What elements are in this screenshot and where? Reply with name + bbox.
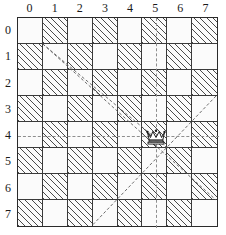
board-square[interactable] bbox=[167, 18, 192, 44]
board-square[interactable] bbox=[43, 174, 68, 200]
board-square[interactable] bbox=[192, 122, 217, 148]
board-square[interactable] bbox=[118, 148, 143, 174]
board-square[interactable] bbox=[68, 44, 93, 70]
row-label-2: 2 bbox=[0, 70, 16, 96]
board-square[interactable] bbox=[118, 18, 143, 44]
board-square[interactable] bbox=[43, 122, 68, 148]
board-square[interactable] bbox=[93, 148, 118, 174]
board-square[interactable] bbox=[142, 70, 167, 96]
row-label-6: 6 bbox=[0, 175, 16, 201]
chessboard bbox=[17, 17, 218, 227]
column-label-1: 1 bbox=[42, 0, 67, 16]
board-square[interactable] bbox=[93, 44, 118, 70]
board-square[interactable] bbox=[118, 122, 143, 148]
board-square[interactable] bbox=[118, 96, 143, 122]
board-square[interactable] bbox=[43, 200, 68, 226]
board-square[interactable] bbox=[118, 200, 143, 226]
board-square[interactable] bbox=[142, 96, 167, 122]
board-square[interactable] bbox=[142, 174, 167, 200]
column-label-0: 0 bbox=[17, 0, 42, 16]
board-square[interactable] bbox=[167, 70, 192, 96]
board-square[interactable] bbox=[68, 18, 93, 44]
row-label-4: 4 bbox=[0, 122, 16, 148]
board-square[interactable] bbox=[192, 44, 217, 70]
board-square[interactable] bbox=[18, 96, 43, 122]
board-square[interactable] bbox=[118, 44, 143, 70]
board-square[interactable] bbox=[142, 200, 167, 226]
column-label-6: 6 bbox=[168, 0, 193, 16]
board-square[interactable] bbox=[192, 174, 217, 200]
board-square[interactable] bbox=[93, 96, 118, 122]
board-square[interactable] bbox=[68, 200, 93, 226]
board-square[interactable] bbox=[43, 148, 68, 174]
board-square[interactable] bbox=[68, 122, 93, 148]
board-square[interactable] bbox=[167, 174, 192, 200]
board-square[interactable] bbox=[18, 148, 43, 174]
board-square[interactable] bbox=[167, 44, 192, 70]
board-square[interactable] bbox=[118, 70, 143, 96]
board-square[interactable] bbox=[167, 200, 192, 226]
board-square[interactable] bbox=[167, 122, 192, 148]
rank-attack-line bbox=[18, 136, 219, 137]
board-square[interactable] bbox=[18, 200, 43, 226]
board-square[interactable] bbox=[18, 18, 43, 44]
column-label-4: 4 bbox=[118, 0, 143, 16]
board-square[interactable] bbox=[18, 70, 43, 96]
board-square[interactable] bbox=[43, 18, 68, 44]
board-square[interactable] bbox=[142, 148, 167, 174]
chessboard-figure: 0 1 2 3 4 5 6 7 0 1 2 3 4 5 6 7 bbox=[0, 0, 226, 235]
column-label-5: 5 bbox=[143, 0, 168, 16]
board-square[interactable] bbox=[43, 70, 68, 96]
board-square[interactable] bbox=[93, 174, 118, 200]
row-label-5: 5 bbox=[0, 148, 16, 174]
board-square[interactable] bbox=[18, 174, 43, 200]
board-square[interactable] bbox=[142, 44, 167, 70]
board-square[interactable] bbox=[18, 122, 43, 148]
board-square[interactable] bbox=[93, 122, 118, 148]
column-label-7: 7 bbox=[193, 0, 218, 16]
column-label-2: 2 bbox=[67, 0, 92, 16]
board-square[interactable] bbox=[43, 44, 68, 70]
board-square[interactable] bbox=[167, 96, 192, 122]
board-square[interactable] bbox=[93, 200, 118, 226]
board-square[interactable] bbox=[93, 70, 118, 96]
row-label-3: 3 bbox=[0, 96, 16, 122]
board-square[interactable] bbox=[192, 148, 217, 174]
file-attack-line bbox=[156, 18, 157, 228]
board-square[interactable] bbox=[68, 70, 93, 96]
row-label-7: 7 bbox=[0, 201, 16, 227]
board-square[interactable] bbox=[68, 148, 93, 174]
board-square[interactable] bbox=[18, 44, 43, 70]
board-square[interactable] bbox=[167, 148, 192, 174]
board-square[interactable] bbox=[142, 122, 167, 148]
board-square[interactable] bbox=[68, 174, 93, 200]
row-label-1: 1 bbox=[0, 43, 16, 69]
row-axis-labels: 0 1 2 3 4 5 6 7 bbox=[0, 17, 16, 227]
board-square[interactable] bbox=[43, 96, 68, 122]
column-label-3: 3 bbox=[92, 0, 117, 16]
board-square[interactable] bbox=[192, 96, 217, 122]
board-square[interactable] bbox=[118, 174, 143, 200]
board-square[interactable] bbox=[192, 18, 217, 44]
chessboard-grid bbox=[18, 18, 217, 226]
board-square[interactable] bbox=[192, 200, 217, 226]
board-square[interactable] bbox=[93, 18, 118, 44]
column-axis-labels: 0 1 2 3 4 5 6 7 bbox=[17, 0, 218, 16]
row-label-0: 0 bbox=[0, 17, 16, 43]
board-square[interactable] bbox=[68, 96, 93, 122]
board-square[interactable] bbox=[192, 70, 217, 96]
board-square[interactable] bbox=[142, 18, 167, 44]
